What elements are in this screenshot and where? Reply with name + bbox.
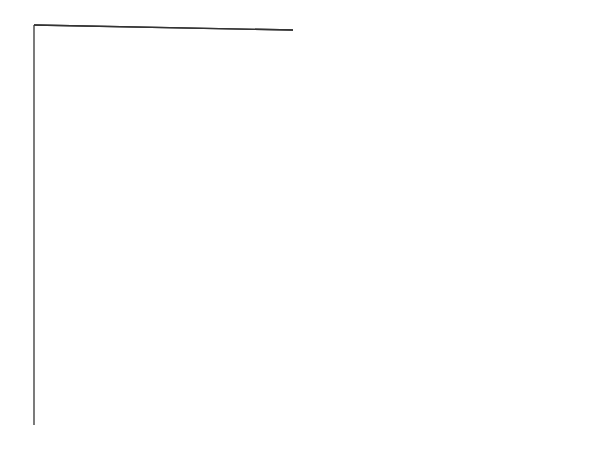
- frame-outline: [34, 25, 293, 185]
- border: [34, 25, 293, 438]
- hand-skeleton-diagram: [0, 0, 591, 468]
- diagram-border-box: [33, 25, 293, 185]
